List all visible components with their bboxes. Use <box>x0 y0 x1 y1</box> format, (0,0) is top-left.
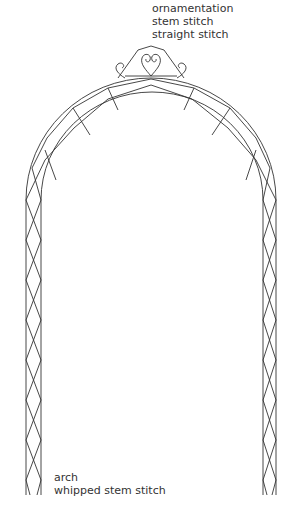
ornament-triangle <box>118 46 184 78</box>
arch-diagram <box>0 0 299 528</box>
scroll-center-left <box>142 54 151 76</box>
inner-arch <box>41 92 263 495</box>
scroll-center-right <box>151 54 160 76</box>
